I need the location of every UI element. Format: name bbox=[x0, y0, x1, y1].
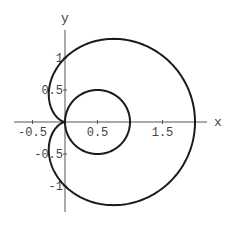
polar-plot: -0.50.51.5 10.5-0.5-1 x y bbox=[0, 0, 234, 227]
axes: -0.50.51.5 10.5-0.5-1 x y bbox=[14, 11, 222, 212]
x-axis-label: x bbox=[214, 115, 222, 130]
x-tick-label: 1.5 bbox=[152, 126, 174, 140]
x-tick-label: 0.5 bbox=[87, 126, 109, 140]
x-tick-label: -0.5 bbox=[18, 126, 47, 140]
y-tick-label: 0.5 bbox=[41, 84, 63, 98]
x-ticks: -0.50.51.5 bbox=[18, 120, 173, 140]
y-axis-label: y bbox=[61, 11, 69, 26]
